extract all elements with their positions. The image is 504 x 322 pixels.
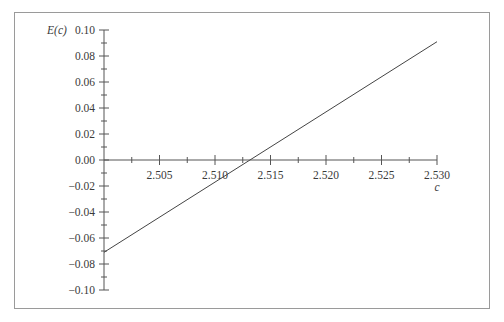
data-line [104,42,437,253]
x-tick-label: 2.525 [369,169,395,181]
y-tick-label: 0.10 [75,24,95,36]
y-tick-label: 0.00 [75,154,95,166]
y-tick-label: −0.06 [68,232,95,244]
x-tick-label: 2.510 [202,169,228,181]
x-tick-label: 2.505 [147,169,173,181]
y-tick-label: −0.02 [68,180,95,192]
x-tick-label: 2.515 [258,169,284,181]
y-tick-label: 0.06 [75,76,95,88]
y-tick-label: −0.08 [68,258,95,270]
line-chart: 0.100.080.060.040.020.00−0.02−0.04−0.06−… [0,0,504,322]
y-tick-label: 0.04 [75,102,95,114]
y-tick-label: 0.08 [75,50,95,62]
y-axis-label: E(c) [46,24,67,37]
x-axis-label: c [434,181,439,193]
x-tick-label: 2.520 [313,169,339,181]
y-tick-label: −0.04 [68,206,95,218]
y-tick-label: −0.10 [68,284,95,296]
y-tick-label: 0.02 [75,128,95,140]
x-tick-label: 2.530 [424,169,450,181]
